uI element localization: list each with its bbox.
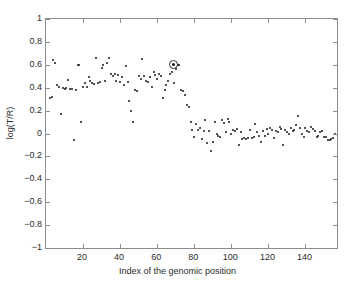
data-point xyxy=(236,128,238,130)
data-point xyxy=(290,127,292,129)
data-point xyxy=(223,122,225,124)
y-axis-tick-mark xyxy=(46,202,50,203)
y-axis-tick-mark xyxy=(333,42,337,43)
data-point xyxy=(127,81,129,83)
y-axis-tick-label: −0.6 xyxy=(24,197,42,206)
y-axis-tick-mark xyxy=(333,19,337,20)
x-axis-tick-label: 120 xyxy=(260,252,275,262)
data-point xyxy=(184,94,186,96)
data-point xyxy=(171,71,173,73)
data-point xyxy=(138,75,140,77)
data-point xyxy=(71,88,73,90)
y-axis-tick-mark xyxy=(333,202,337,203)
data-point xyxy=(93,83,95,85)
data-point xyxy=(154,74,156,76)
data-point xyxy=(240,131,242,133)
y-axis-tick-mark xyxy=(46,179,50,180)
x-axis-tick-label: 100 xyxy=(223,252,238,262)
data-point xyxy=(58,86,60,88)
data-point xyxy=(271,129,273,131)
data-point xyxy=(128,100,130,102)
x-axis-tick-mark xyxy=(83,19,84,23)
data-point xyxy=(260,141,262,143)
data-point xyxy=(112,75,114,77)
x-axis-label: Index of the genomic position xyxy=(0,266,355,276)
data-point xyxy=(258,135,260,137)
highlighted-data-point[interactable] xyxy=(169,60,178,69)
y-axis-tick-mark xyxy=(46,156,50,157)
data-point xyxy=(75,89,77,91)
data-point xyxy=(193,136,195,138)
y-axis-tick-label: −0.4 xyxy=(24,174,42,183)
data-point xyxy=(277,131,279,133)
data-point xyxy=(84,82,86,84)
y-axis-tick-mark xyxy=(333,134,337,135)
data-point xyxy=(88,76,90,78)
data-point xyxy=(114,73,116,75)
data-point xyxy=(67,79,69,81)
x-axis-tick-mark xyxy=(120,19,121,23)
data-point xyxy=(123,84,125,86)
y-axis-tick-mark xyxy=(333,225,337,226)
data-point xyxy=(147,81,149,83)
data-point xyxy=(52,59,54,61)
data-point xyxy=(173,82,175,84)
data-point xyxy=(299,127,301,129)
data-point xyxy=(199,127,201,129)
y-axis-tick-mark xyxy=(333,248,337,249)
x-axis-tick-mark xyxy=(120,244,121,248)
x-axis-tick-label: 20 xyxy=(77,252,87,262)
data-point xyxy=(121,76,123,78)
data-point xyxy=(86,86,88,88)
x-axis-tick-label: 60 xyxy=(151,252,161,262)
data-point xyxy=(210,150,212,152)
y-axis-tick-mark xyxy=(46,111,50,112)
data-point xyxy=(203,130,205,132)
data-point xyxy=(264,135,266,137)
data-point xyxy=(280,128,282,130)
data-point xyxy=(190,121,192,123)
x-axis-tick-mark xyxy=(83,244,84,248)
data-point xyxy=(234,130,236,132)
data-point xyxy=(321,130,323,132)
data-point xyxy=(115,80,117,82)
data-point xyxy=(230,133,232,135)
y-axis-tick-mark xyxy=(46,134,50,135)
y-axis-tick-mark xyxy=(333,179,337,180)
data-point xyxy=(188,106,190,108)
data-point xyxy=(266,128,268,130)
data-point xyxy=(165,84,167,86)
y-axis-tick-mark xyxy=(46,65,50,66)
y-axis-tick-label: 0.8 xyxy=(29,36,42,45)
data-point xyxy=(195,123,197,125)
data-point xyxy=(151,86,153,88)
y-axis-tick-mark xyxy=(333,65,337,66)
data-point xyxy=(164,89,166,91)
data-point xyxy=(78,64,80,66)
x-axis-tick-mark xyxy=(268,19,269,23)
data-point xyxy=(167,80,169,82)
data-point xyxy=(288,133,290,135)
data-point xyxy=(254,123,256,125)
y-axis-tick-label: 0.2 xyxy=(29,105,42,114)
scatter-plot-figure: −1−0.8−0.6−0.4−0.200.20.40.60.8120406080… xyxy=(0,0,355,290)
y-axis-tick-mark xyxy=(333,156,337,157)
data-point xyxy=(325,136,327,138)
data-point xyxy=(82,86,84,88)
data-point xyxy=(160,75,162,77)
data-point xyxy=(149,76,151,78)
x-axis-tick-label: 80 xyxy=(188,252,198,262)
data-point xyxy=(282,144,284,146)
data-point xyxy=(101,67,103,69)
data-point xyxy=(247,137,249,139)
data-point xyxy=(117,74,119,76)
data-point xyxy=(73,139,75,141)
data-point xyxy=(156,78,158,80)
data-point xyxy=(169,73,171,75)
data-point xyxy=(208,130,210,132)
data-point xyxy=(143,75,145,77)
data-point xyxy=(228,121,230,123)
x-axis-tick-label: 140 xyxy=(297,252,312,262)
y-axis-tick-label: −0.2 xyxy=(24,151,42,160)
data-point xyxy=(162,97,164,99)
